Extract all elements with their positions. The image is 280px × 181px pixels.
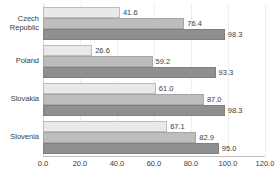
bar bbox=[43, 105, 225, 116]
bar-value-label: 59.2 bbox=[153, 56, 171, 67]
bar-value-label: 95.0 bbox=[219, 143, 237, 154]
bar-groups: 41.676.498.326.659.293.361.087.098.367.1… bbox=[43, 4, 265, 156]
category-label: CzechRepublic bbox=[0, 14, 39, 33]
bar bbox=[43, 121, 167, 132]
bar-row: 76.4 bbox=[43, 18, 265, 29]
category-label: Slovakia bbox=[0, 94, 39, 104]
category-label-line: Republic bbox=[0, 23, 39, 33]
x-axis-tick-labels: 0.020.040.060.080.0100.0120.0 bbox=[0, 159, 280, 173]
x-tick-label: 40.0 bbox=[110, 159, 125, 169]
bar-group: 61.087.098.3 bbox=[43, 83, 265, 116]
category-label: Slovenia bbox=[0, 132, 39, 142]
bar-row: 61.0 bbox=[43, 83, 265, 94]
x-tick-label: 20.0 bbox=[73, 159, 88, 169]
category-label-line: Slovenia bbox=[0, 132, 39, 142]
bar-value-label: 67.1 bbox=[167, 121, 185, 132]
bar-row: 59.2 bbox=[43, 56, 265, 67]
bar-value-label: 82.9 bbox=[196, 132, 214, 143]
bar bbox=[43, 132, 196, 143]
bar bbox=[43, 83, 156, 94]
category-label-line: Slovakia bbox=[0, 94, 39, 104]
x-tick-label: 100.0 bbox=[219, 159, 238, 169]
bar-chart: CzechRepublicPolandSlovakiaSlovenia 41.6… bbox=[0, 0, 280, 181]
bar bbox=[43, 18, 184, 29]
bar-row: 67.1 bbox=[43, 121, 265, 132]
bar-row: 93.3 bbox=[43, 67, 265, 78]
bar-value-label: 61.0 bbox=[156, 83, 174, 94]
bar-value-label: 41.6 bbox=[120, 7, 138, 18]
x-tick-label: 0.0 bbox=[38, 159, 48, 169]
x-tick-label: 60.0 bbox=[147, 159, 162, 169]
bar-value-label: 26.6 bbox=[92, 45, 110, 56]
bar-row: 87.0 bbox=[43, 94, 265, 105]
bar-row: 98.3 bbox=[43, 105, 265, 116]
bar bbox=[43, 143, 219, 154]
x-tick-label: 80.0 bbox=[184, 159, 199, 169]
x-axis-line bbox=[43, 156, 265, 157]
bar-group: 26.659.293.3 bbox=[43, 45, 265, 78]
x-tick-label: 120.0 bbox=[256, 159, 275, 169]
bar-value-label: 98.3 bbox=[225, 105, 243, 116]
bar-value-label: 98.3 bbox=[225, 29, 243, 40]
plot-area: 41.676.498.326.659.293.361.087.098.367.1… bbox=[43, 4, 265, 156]
bar-row: 82.9 bbox=[43, 132, 265, 143]
category-label: Poland bbox=[0, 56, 39, 66]
bar-row: 95.0 bbox=[43, 143, 265, 154]
bar-row: 26.6 bbox=[43, 45, 265, 56]
bar bbox=[43, 45, 92, 56]
bar bbox=[43, 7, 120, 18]
bar-group: 67.182.995.0 bbox=[43, 121, 265, 154]
bar-value-label: 93.3 bbox=[216, 67, 234, 78]
bar bbox=[43, 94, 204, 105]
bar bbox=[43, 67, 216, 78]
bar-row: 98.3 bbox=[43, 29, 265, 40]
bar-row: 41.6 bbox=[43, 7, 265, 18]
category-label-line: Czech bbox=[0, 14, 39, 24]
bar bbox=[43, 29, 225, 40]
category-axis-labels: CzechRepublicPolandSlovakiaSlovenia bbox=[0, 4, 39, 156]
bar bbox=[43, 56, 153, 67]
gridline bbox=[265, 4, 266, 156]
bar-value-label: 87.0 bbox=[204, 94, 222, 105]
category-label-line: Poland bbox=[0, 56, 39, 66]
bar-group: 41.676.498.3 bbox=[43, 7, 265, 40]
bar-value-label: 76.4 bbox=[184, 18, 202, 29]
